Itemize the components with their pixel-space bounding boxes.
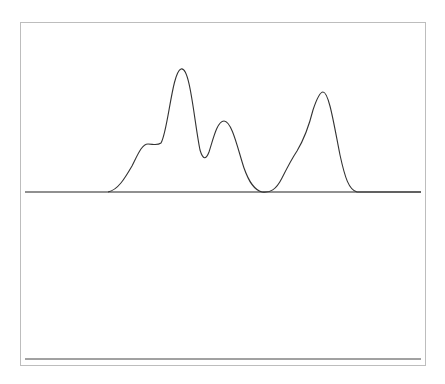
plot-frame <box>21 23 426 366</box>
spectrum-figure <box>0 0 445 384</box>
